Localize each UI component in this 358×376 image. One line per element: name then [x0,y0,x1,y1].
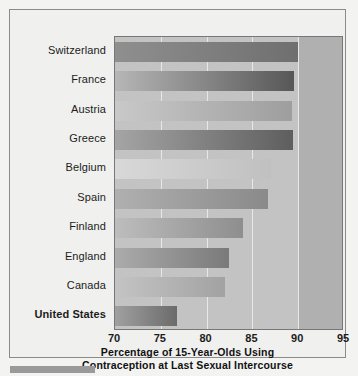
category-label-switzerland: Switzerland [48,44,106,56]
bar-row [115,42,344,62]
category-label-greece: Greece [69,132,106,144]
bar-row [115,130,344,150]
bar-greece [115,130,293,150]
xtick-label-90: 90 [291,332,303,344]
bar-spain [115,189,268,209]
category-label-canada: Canada [67,279,106,291]
xtick-label-85: 85 [245,332,257,344]
bar-row [115,189,344,209]
footer-mark [10,366,95,373]
bar-row [115,101,344,121]
category-label-france: France [71,73,106,85]
xtick-label-95: 95 [337,332,349,344]
xtick-label-70: 70 [108,332,120,344]
bar-united-states [115,306,177,326]
bar-belgium [115,159,271,179]
category-label-belgium: Belgium [66,161,106,173]
bar-row [115,71,344,91]
category-label-england: England [65,250,106,262]
bar-row [115,277,344,297]
bar-canada [115,277,225,297]
bar-austria [115,101,292,121]
bar-row [115,306,344,326]
category-label-austria: Austria [71,103,106,115]
bar-row [115,248,344,268]
xtick-label-80: 80 [199,332,211,344]
bar-finland [115,218,243,238]
axis-title-line-1: Percentage of 15-Year-Olds Using [19,346,356,359]
chart-frame: SwitzerlandFranceAustriaGreeceBelgiumSpa… [9,9,346,358]
plot-area [114,36,343,330]
bar-series [115,37,342,329]
category-label-spain: Spain [77,191,106,203]
bar-row [115,159,344,179]
category-label-united-states: United States [34,308,106,320]
bar-row [115,218,344,238]
chart-figure: SwitzerlandFranceAustriaGreeceBelgiumSpa… [0,0,358,376]
bar-switzerland [115,42,298,62]
bar-england [115,248,229,268]
bar-france [115,71,294,91]
category-axis-labels: SwitzerlandFranceAustriaGreeceBelgiumSpa… [19,36,111,330]
category-label-finland: Finland [69,220,106,232]
xtick-label-75: 75 [154,332,166,344]
